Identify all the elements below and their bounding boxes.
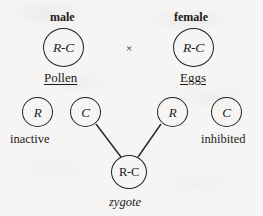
gamete-circle-egg-r: R <box>157 97 188 127</box>
line-pollen-c-to-zygote <box>96 124 121 157</box>
zygote-genotype: R-C <box>119 166 139 179</box>
zygote-circle: R-C <box>111 155 147 189</box>
female-parent-genotype: R-C <box>183 41 204 55</box>
female-parent-label: female <box>174 11 208 23</box>
line-egg-r-to-zygote <box>138 124 161 157</box>
male-parent-genotype: R-C <box>53 41 74 55</box>
gamete-allele-egg-r: R <box>169 106 177 119</box>
zygote-label: zygote <box>109 196 141 209</box>
male-parent-label: male <box>50 11 75 23</box>
male-parent-circle: R-C <box>43 28 84 67</box>
inactive-state-label: inactive <box>10 133 50 146</box>
gamete-allele-pollen-r: R <box>34 106 42 119</box>
pollen-label: Pollen <box>44 71 77 84</box>
eggs-label: Eggs <box>180 71 206 84</box>
gamete-allele-egg-c: C <box>222 106 230 119</box>
gamete-allele-pollen-c: C <box>81 106 89 119</box>
genetics-cross-diagram: male R-C Pollen × female R-C Eggs R C R … <box>0 0 263 216</box>
gamete-circle-pollen-r: R <box>22 97 53 127</box>
female-parent-circle: R-C <box>173 28 214 67</box>
gamete-circle-egg-c: C <box>211 97 242 127</box>
cross-symbol: × <box>126 43 132 54</box>
inhibited-state-label: inhibited <box>201 133 245 146</box>
gamete-circle-pollen-c: C <box>70 97 101 127</box>
